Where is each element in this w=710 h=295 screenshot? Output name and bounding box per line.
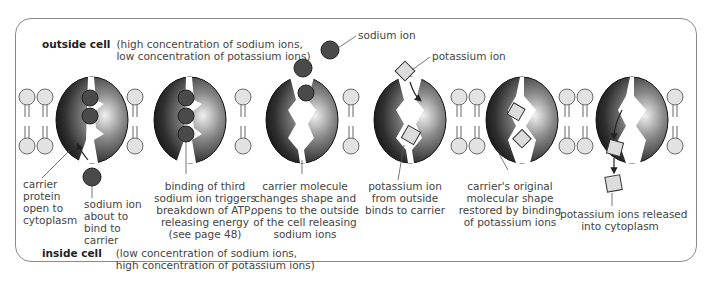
lipid-head — [469, 138, 485, 154]
step-label-5: potassium ionfrom outsidebinds to carrie… — [360, 180, 450, 216]
lipid-head — [127, 138, 143, 154]
lipid-head — [559, 138, 575, 154]
lipid-head — [451, 89, 467, 105]
step-label-2: sodium ionabout tobind tocarrier — [84, 198, 142, 246]
sodium-ion — [82, 90, 98, 106]
lipid-head — [127, 89, 143, 105]
lipid-head — [235, 89, 251, 105]
carrier-proteins — [56, 77, 668, 163]
lipid-head — [343, 138, 359, 154]
lipid-head — [577, 89, 593, 105]
lipid-head — [469, 89, 485, 105]
step-label-6: carrier's originalmolecular shaperestore… — [455, 180, 565, 228]
lipid-head — [235, 138, 251, 154]
lipid-head — [451, 138, 467, 154]
lipid-head — [559, 89, 575, 105]
sodium-ion — [82, 108, 98, 124]
step-label-3: binding of thirdsodium ion triggersbreak… — [150, 180, 260, 240]
lipid-head — [577, 138, 593, 154]
lipid-head — [19, 138, 35, 154]
lipid-head — [667, 138, 683, 154]
step-label-1: carrierproteinopen tocytoplasm — [23, 178, 77, 226]
potassium-ion-callout: potassium ion — [432, 50, 506, 62]
outside-cell-label: outside cell(high concentration of sodiu… — [42, 38, 310, 62]
step-label-4: carrier moleculechanges shape andopens t… — [245, 180, 365, 240]
lipid-head — [37, 138, 53, 154]
lipid-head — [37, 89, 53, 105]
lipid-head — [19, 89, 35, 105]
sodium-ion — [83, 168, 101, 186]
sodium-ion-callout: sodium ion — [358, 29, 416, 41]
lipid-head — [667, 89, 683, 105]
step-label-7: potassium ions releasedinto cytoplasm — [560, 208, 680, 232]
lipid-head — [343, 89, 359, 105]
inside-cell-label: inside cell(low concentration of sodium … — [42, 247, 315, 271]
